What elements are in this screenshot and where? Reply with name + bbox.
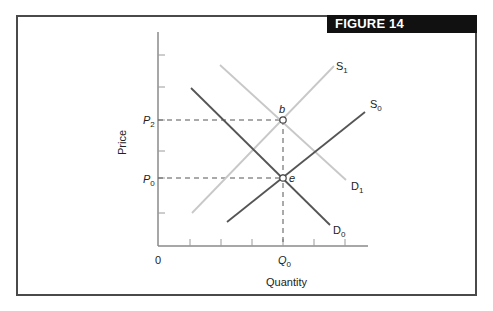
p2-label: P2 [143,114,155,129]
x-ticks [190,239,345,246]
y-ticks [158,55,165,213]
s1-label: S1 [336,60,348,75]
x-axis-title: Quantity [266,276,307,288]
supply-curve-s1 [192,66,334,213]
chart-svg: b e S1 S0 D1 D0 P2 P0 0 Q0 Quantity Pric… [0,0,493,311]
point-e-label: e [289,172,295,184]
supply-curve-s0 [227,112,365,222]
s0-label: S0 [370,98,382,113]
origin-label: 0 [155,254,161,266]
q0-label: Q0 [278,254,292,269]
y-axis-title: Price [116,130,128,155]
point-e-marker [280,175,286,181]
p0-label: P0 [143,173,155,188]
d0-label: D0 [333,224,346,239]
d1-label: D1 [351,180,364,195]
point-b-marker [280,117,286,123]
point-b-label: b [279,103,285,115]
